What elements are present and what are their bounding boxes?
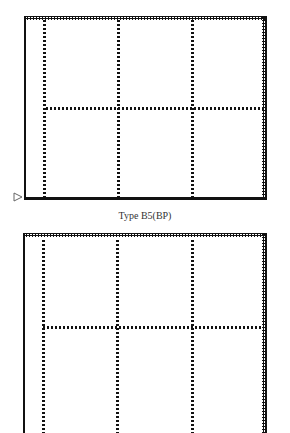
perforation-vertical-2 <box>116 239 119 433</box>
perforation-vertical-1 <box>42 239 45 433</box>
perforated-edge-right <box>262 233 267 433</box>
perforation-horizontal <box>45 107 263 110</box>
perforation-vertical-3 <box>191 239 194 433</box>
diagram-caption: Type B5(BP) <box>0 210 290 221</box>
perforated-edge-top <box>26 16 267 20</box>
triangle-marker-icon <box>13 192 23 202</box>
perforation-horizontal <box>42 326 263 329</box>
sheet-frame-2 <box>23 233 267 433</box>
perforated-edge-top <box>25 233 267 237</box>
sheet-frame-b5bp <box>24 16 267 200</box>
